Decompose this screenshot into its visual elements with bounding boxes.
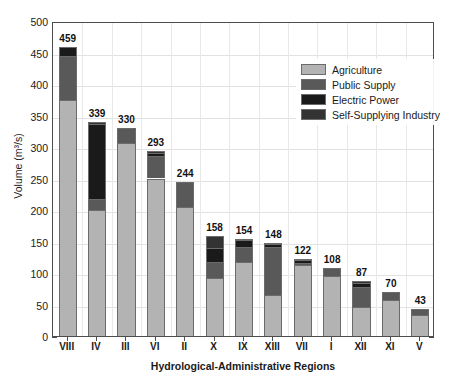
bar-segment[interactable]	[264, 243, 282, 244]
bar-value-label: 293	[147, 138, 164, 148]
bar-segment[interactable]	[117, 128, 135, 143]
bar-stack[interactable]: 244	[176, 21, 194, 336]
bar-value-label: 459	[59, 34, 76, 44]
y-axis-tick-label: 450	[4, 49, 48, 60]
bar-segment[interactable]	[176, 207, 194, 336]
bar-segment[interactable]	[294, 259, 312, 260]
bar-value-label: 330	[118, 115, 135, 125]
x-axis-tick-label: V	[405, 341, 434, 352]
y-axis-tick-mark	[52, 337, 57, 338]
bar-stack[interactable]: 293	[147, 21, 165, 336]
bar-segment[interactable]	[411, 315, 429, 336]
figure: Volume (m³/s) 05010015020025030035040045…	[0, 0, 452, 382]
bar-segment[interactable]	[88, 122, 106, 124]
legend-item[interactable]: Public Supply	[301, 78, 440, 91]
bar-stack[interactable]: 459	[59, 21, 77, 336]
y-axis-tick-label: 50	[4, 301, 48, 312]
bar-segment[interactable]	[147, 153, 165, 156]
legend-swatch	[301, 64, 326, 75]
bar-stack[interactable]: 158	[206, 21, 224, 336]
bar-value-label: 148	[265, 230, 282, 240]
bar-segment[interactable]	[382, 292, 400, 300]
bar-segment[interactable]	[352, 287, 370, 307]
bar-segment[interactable]	[88, 210, 106, 336]
legend-item[interactable]: Self-Supplying Industry	[301, 108, 440, 121]
bar-segment[interactable]	[176, 182, 194, 207]
gridline-vertical	[288, 23, 289, 336]
bar-value-label: 70	[385, 279, 396, 289]
x-axis-tick-mark	[243, 337, 244, 341]
bar-segment[interactable]	[59, 100, 77, 336]
bar-value-label: 154	[236, 226, 253, 236]
legend-swatch	[301, 94, 326, 105]
bar-segment[interactable]	[147, 156, 165, 179]
bar-segment[interactable]	[147, 151, 165, 152]
bar-segment[interactable]	[294, 263, 312, 266]
bar-segment[interactable]	[235, 262, 253, 336]
x-axis-tick-label: I	[316, 341, 345, 352]
y-axis-label: Volume (m³/s)	[12, 86, 24, 246]
bar-segment[interactable]	[264, 244, 282, 247]
bar-segment[interactable]	[235, 239, 253, 240]
bar-segment[interactable]	[323, 276, 341, 336]
gridline-vertical	[82, 23, 83, 336]
y-axis-tick-label: 350	[4, 112, 48, 123]
bar-segment[interactable]	[206, 248, 224, 262]
bar-segment[interactable]	[206, 236, 224, 247]
bar-segment[interactable]	[294, 260, 312, 263]
bar-segment[interactable]	[264, 295, 282, 336]
bar-segment[interactable]	[294, 265, 312, 336]
bar-segment[interactable]	[88, 124, 106, 198]
x-axis-tick-mark	[184, 337, 185, 341]
bar-segment[interactable]	[59, 47, 77, 56]
bar-segment[interactable]	[206, 278, 224, 336]
bar-segment[interactable]	[117, 143, 135, 336]
x-axis-tick-label: X	[199, 341, 228, 352]
legend-label: Self-Supplying Industry	[332, 109, 440, 121]
bar-segment[interactable]	[382, 300, 400, 336]
gridline-vertical	[171, 23, 172, 336]
bar-segment[interactable]	[235, 247, 253, 262]
y-axis-tick-label: 500	[4, 17, 48, 28]
x-axis-tick-mark	[272, 337, 273, 341]
gridline-vertical	[112, 23, 113, 336]
bar-segment[interactable]	[206, 262, 224, 278]
bar-segment[interactable]	[411, 309, 429, 315]
x-axis-tick-label: III	[111, 341, 140, 352]
gridline-vertical	[259, 23, 260, 336]
legend-item[interactable]: Agriculture	[301, 63, 440, 76]
bar-segment[interactable]	[59, 56, 77, 99]
bar-segment[interactable]	[323, 268, 341, 276]
y-axis-tick-mark-right	[429, 337, 434, 338]
bar-stack[interactable]: 330	[117, 21, 135, 336]
legend-swatch	[301, 109, 326, 120]
bar-segment[interactable]	[352, 283, 370, 287]
x-axis-tick-mark	[361, 337, 362, 341]
bar-segment[interactable]	[235, 240, 253, 246]
bar-stack[interactable]: 148	[264, 21, 282, 336]
x-axis-tick-label: XI	[375, 341, 404, 352]
bar-segment[interactable]	[147, 179, 165, 337]
bar-value-label: 87	[356, 268, 367, 278]
y-axis-tick-label: 0	[4, 332, 48, 343]
y-axis-tick-label: 200	[4, 206, 48, 217]
y-axis-tick-label: 300	[4, 143, 48, 154]
x-axis-tick-label: VII	[287, 341, 316, 352]
bar-stack[interactable]: 154	[235, 21, 253, 336]
x-axis-tick-label: IX	[228, 341, 257, 352]
bar-value-label: 339	[89, 109, 106, 119]
bar-stack[interactable]: 339	[88, 21, 106, 336]
bar-segment[interactable]	[352, 307, 370, 336]
x-axis-tick-mark	[155, 337, 156, 341]
x-axis-tick-mark	[302, 337, 303, 341]
bar-segment[interactable]	[264, 247, 282, 296]
x-axis-label: Hydrological-Administrative Regions	[52, 360, 434, 372]
legend-item[interactable]: Electric Power	[301, 93, 440, 106]
legend: AgriculturePublic SupplyElectric PowerSe…	[296, 59, 446, 125]
bar-segment[interactable]	[88, 199, 106, 210]
legend-swatch	[301, 79, 326, 90]
x-axis-tick-mark	[419, 337, 420, 341]
x-axis-tick-mark	[125, 337, 126, 341]
bar-segment[interactable]	[352, 281, 370, 283]
plot-area: 459339330293244158154148122108877043 Agr…	[52, 22, 434, 337]
